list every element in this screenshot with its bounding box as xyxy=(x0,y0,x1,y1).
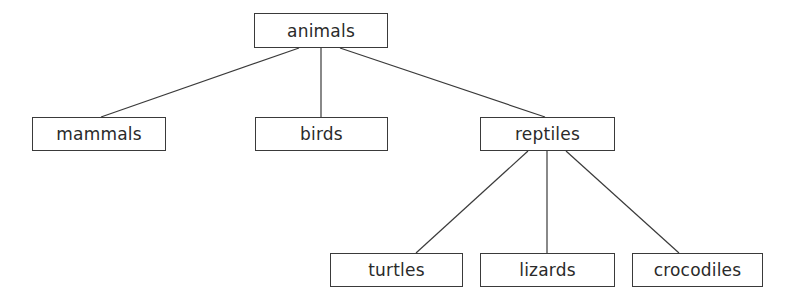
edge-reptiles-turtles xyxy=(416,151,528,253)
edge-reptiles-crocodiles xyxy=(566,151,679,253)
edge-animals-reptiles xyxy=(340,48,545,117)
taxonomy-tree-diagram: animals mammals birds reptiles turtles l… xyxy=(0,0,786,306)
node-mammals: mammals xyxy=(32,117,166,151)
node-animals: animals xyxy=(254,13,388,48)
node-reptiles: reptiles xyxy=(480,117,615,151)
edge-animals-mammals xyxy=(101,48,299,117)
node-birds: birds xyxy=(255,117,388,151)
node-turtles: turtles xyxy=(330,253,463,287)
node-crocodiles: crocodiles xyxy=(632,253,763,287)
node-lizards: lizards xyxy=(480,253,615,287)
